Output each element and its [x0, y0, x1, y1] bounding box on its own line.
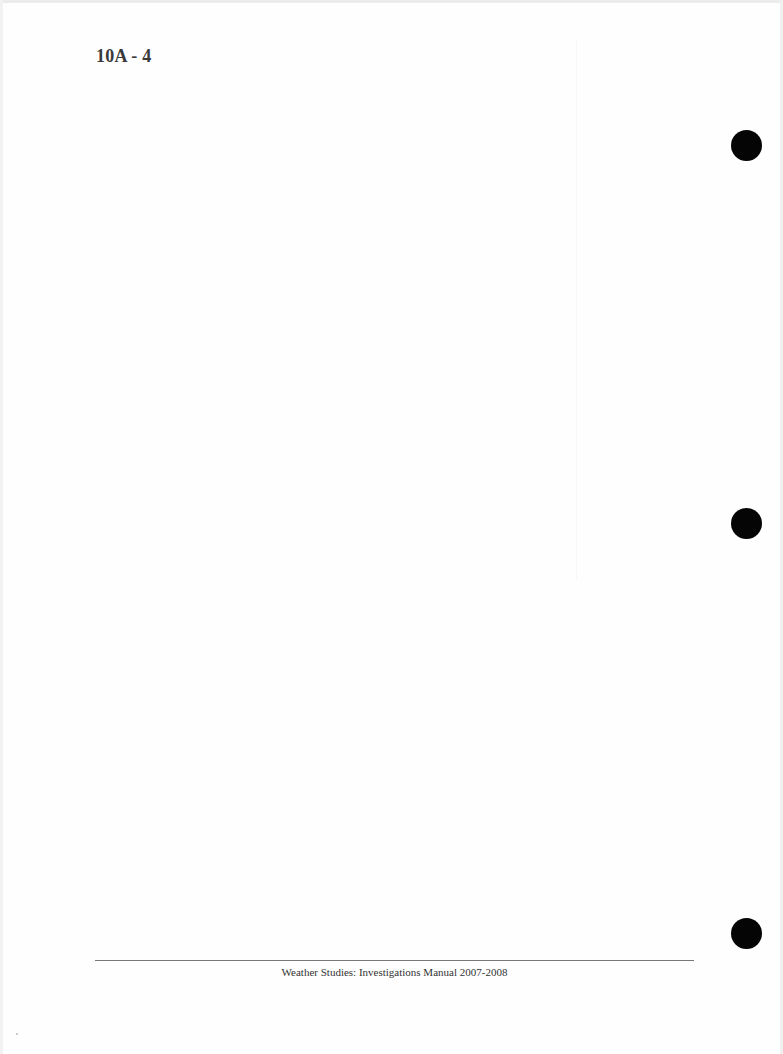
- binder-hole-icon: [731, 130, 762, 161]
- binder-hole-icon: [731, 918, 762, 949]
- scan-artifact-line: [576, 40, 577, 580]
- footer-divider: [95, 960, 694, 961]
- scan-edge-left: [0, 0, 3, 1054]
- footer-text: Weather Studies: Investigations Manual 2…: [95, 966, 694, 978]
- scan-edge-top: [0, 0, 783, 3]
- scan-speck: [16, 1033, 18, 1035]
- page-number: 10A - 4: [96, 46, 151, 67]
- binder-hole-icon: [731, 508, 762, 539]
